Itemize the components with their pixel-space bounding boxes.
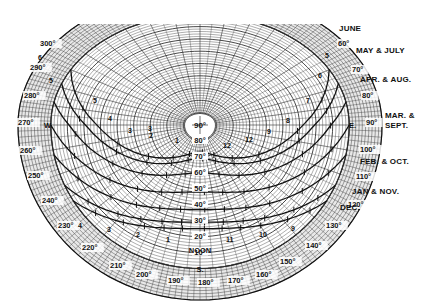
- month-label: MAR. &: [385, 111, 415, 120]
- altitude-label: 70°: [194, 152, 205, 161]
- hour-label: 12: [223, 142, 231, 149]
- hour-label: 3: [148, 125, 152, 132]
- azimuth-label: 90°: [366, 118, 377, 127]
- month-label: JUNE: [339, 24, 361, 33]
- month-label: APR. & AUG.: [360, 75, 411, 84]
- azimuth-label: 130°: [326, 221, 342, 230]
- hour-label: 6: [318, 72, 322, 79]
- noon-label: NOON: [189, 246, 212, 255]
- hour-label: 5: [325, 52, 329, 59]
- azimuth-label: 190°: [168, 276, 184, 285]
- center-zenith-label: 90°: [194, 121, 206, 130]
- azimuth-label: 70°: [352, 65, 363, 74]
- west-label: W.: [44, 121, 53, 130]
- hour-label: 6: [38, 54, 42, 61]
- hour-label: 11: [226, 236, 234, 243]
- azimuth-label: 100°: [360, 145, 376, 154]
- azimuth-label: 280°: [24, 91, 40, 100]
- azimuth-label: 110°: [356, 172, 371, 181]
- hour-label: 1: [175, 137, 179, 144]
- hour-label: 4: [108, 115, 112, 122]
- azimuth-label: 60°: [338, 39, 349, 48]
- hour-label: 5: [93, 97, 97, 104]
- altitude-label: 80°: [194, 136, 205, 145]
- month-label: FEB. & OCT.: [360, 157, 409, 166]
- hour-label: 3: [128, 127, 132, 134]
- altitude-label: 20°: [194, 232, 205, 241]
- azimuth-label: 200°: [136, 270, 152, 279]
- azimuth-label: 270°: [18, 118, 34, 127]
- azimuth-label: 220°: [82, 243, 98, 252]
- altitude-label: 40°: [194, 200, 205, 209]
- month-label: JAN & NOV.: [352, 187, 399, 196]
- azimuth-label: 300°: [40, 39, 56, 48]
- hour-label: 7: [306, 97, 310, 104]
- altitude-label: 30°: [194, 216, 205, 225]
- azimuth-label: 140°: [306, 241, 322, 250]
- azimuth-label: 210°: [110, 261, 126, 270]
- hour-label: 10: [259, 231, 267, 238]
- hour-label: 4: [78, 222, 82, 229]
- hour-label: 1: [166, 236, 170, 243]
- hour-label: 12: [245, 136, 253, 143]
- azimuth-label: 150°: [280, 257, 296, 266]
- sun-path-diagram: 90°80°70°60°50°40°30°20°10°NOONS.W.E.300…: [0, 0, 434, 308]
- hour-label: 2: [136, 231, 140, 238]
- hour-label: 9: [267, 128, 271, 135]
- month-label: MAY & JULY: [356, 46, 405, 55]
- azimuth-label: 240°: [42, 196, 58, 205]
- hour-label: 5: [49, 77, 53, 84]
- hour-label: 8: [286, 117, 290, 124]
- month-label: SEPT.: [385, 121, 408, 130]
- azimuth-label: 170°: [228, 276, 244, 285]
- hour-label: 3: [107, 226, 111, 233]
- south-label: S.: [196, 265, 203, 274]
- azimuth-label: 290°: [30, 63, 46, 72]
- altitude-label: 60°: [194, 168, 205, 177]
- month-label: DEC.: [340, 203, 360, 212]
- azimuth-label: 260°: [20, 146, 36, 155]
- altitude-label: 50°: [194, 184, 205, 193]
- azimuth-label: 180°: [198, 278, 214, 287]
- azimuth-label: 160°: [256, 270, 272, 279]
- azimuth-label: 80°: [362, 91, 373, 100]
- azimuth-label: 250°: [28, 171, 44, 180]
- hour-label: 9: [291, 225, 295, 232]
- azimuth-label: 230°: [58, 221, 74, 230]
- east-label: E.: [349, 121, 356, 130]
- hour-label: 2: [149, 132, 153, 139]
